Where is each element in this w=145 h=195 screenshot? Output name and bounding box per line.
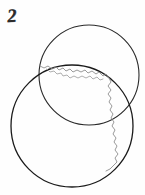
figure-panel: 2 <box>0 0 145 195</box>
figure-background <box>0 0 145 195</box>
figure-number-label: 2 <box>6 6 17 26</box>
figure-drawing-canvas <box>0 0 145 195</box>
